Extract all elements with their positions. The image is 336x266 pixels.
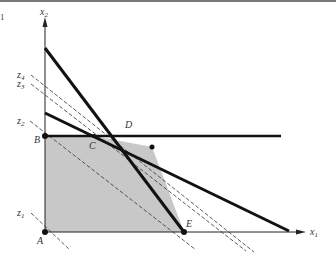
label-B: B: [34, 134, 40, 145]
vertex-B: [42, 133, 48, 139]
lp-diagram: x2 x1 A B C D E z1 z2 z3 z4: [0, 0, 336, 266]
vertex-D: [150, 145, 155, 150]
label-z2: z2: [16, 115, 25, 128]
label-A: A: [36, 235, 44, 246]
vertex-E: [181, 229, 187, 235]
x2-axis-label: x2: [39, 6, 48, 19]
x1-axis-label: x1: [309, 226, 318, 239]
x1-axis-arrow-icon: [296, 230, 306, 235]
feasible-region: [45, 136, 184, 232]
label-D: D: [124, 119, 133, 130]
label-E: E: [185, 218, 192, 229]
label-C: C: [89, 140, 96, 151]
label-z1: z1: [16, 207, 24, 220]
vertex-C: [92, 134, 96, 138]
